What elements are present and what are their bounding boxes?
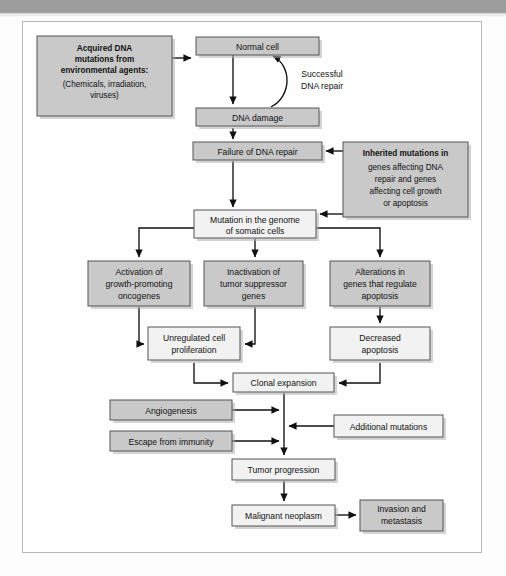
node-malignant-neoplasm[interactable]: Malignant neoplasm <box>232 505 338 529</box>
edge-decreased-to-clonal <box>339 363 380 383</box>
edge-label-successful-repair: Successful DNA repair <box>301 69 343 91</box>
tumor-progression-label: Tumor progression <box>248 465 320 475</box>
successful-repair-line-2: DNA repair <box>301 81 343 91</box>
suppressor-line-2: tumor suppressor <box>220 279 287 289</box>
inherited-line-5: or apoptosis <box>383 199 428 208</box>
node-angiogenesis[interactable]: Angiogenesis <box>110 400 235 423</box>
edge-suppressor-to-proliferation <box>245 307 255 344</box>
node-invasion-metastasis[interactable]: Invasion and metastasis <box>360 500 446 534</box>
decreased-line-1: Decreased <box>359 333 401 343</box>
inherited-line-1: Inherited mutations in <box>363 149 449 158</box>
acquired-line-3: environmental agents: <box>61 66 148 75</box>
page-canvas: Acquired DNA mutations from environmenta… <box>0 0 506 576</box>
node-decreased-apoptosis[interactable]: Decreased apoptosis <box>330 327 433 363</box>
mutation-genome-line-2: of somatic cells <box>226 226 285 236</box>
node-dna-damage[interactable]: DNA damage <box>196 108 322 129</box>
additional-mutations-label: Additional mutations <box>350 422 427 432</box>
node-clonal-expansion[interactable]: Clonal expansion <box>233 373 337 395</box>
normal-cell-label: Normal cell <box>236 42 279 52</box>
node-inherited-mutations[interactable]: Inherited mutations in genes affecting D… <box>343 142 471 220</box>
node-acquired-mutations[interactable]: Acquired DNA mutations from environmenta… <box>37 36 175 119</box>
oncogenes-line-1: Activation of <box>116 267 163 277</box>
malignant-neoplasm-label: Malignant neoplasm <box>245 511 322 521</box>
edge-successful-repair <box>271 56 287 107</box>
node-alterations-apoptosis[interactable]: Alterations in genes that regulate apopt… <box>330 261 433 309</box>
clonal-expansion-label: Clonal expansion <box>251 378 317 388</box>
node-additional-mutations[interactable]: Additional mutations <box>334 415 446 440</box>
alterations-line-3: apoptosis <box>362 291 399 301</box>
node-mutation-in-genome[interactable]: Mutation in the genome of somatic cells <box>194 210 319 241</box>
oncogenes-line-2: growth-promoting <box>106 279 173 289</box>
suppressor-line-1: Inactivation of <box>227 267 281 277</box>
acquired-line-2: mutations from <box>75 55 135 64</box>
dna-damage-label: DNA damage <box>232 113 283 123</box>
node-tumor-progression[interactable]: Tumor progression <box>232 459 338 483</box>
acquired-line-1: Acquired DNA <box>77 44 133 53</box>
flowchart-svg: Acquired DNA mutations from environmenta… <box>0 0 506 576</box>
node-failure-of-dna-repair[interactable]: Failure of DNA repair <box>193 142 325 163</box>
inherited-line-3: repair and genes <box>375 175 436 184</box>
inherited-line-4: affecting cell growth <box>369 187 442 196</box>
failure-repair-label: Failure of DNA repair <box>217 147 297 157</box>
edge-mutation-to-alterations <box>316 228 380 257</box>
escape-immunity-label: Escape from immunity <box>128 437 214 447</box>
node-escape-from-immunity[interactable]: Escape from immunity <box>110 431 235 454</box>
node-normal-cell[interactable]: Normal cell <box>196 37 322 58</box>
successful-repair-line-1: Successful <box>301 69 343 79</box>
mutation-genome-line-1: Mutation in the genome <box>210 215 300 225</box>
inherited-line-2: genes affecting DNA <box>368 163 443 172</box>
invasion-line-1: Invasion and <box>377 504 426 514</box>
oncogenes-line-3: oncogenes <box>118 291 160 301</box>
edge-proliferation-to-clonal <box>194 363 228 383</box>
node-activation-oncogenes[interactable]: Activation of growth-promoting oncogenes <box>88 261 193 309</box>
acquired-line-5: viruses) <box>90 91 119 100</box>
decreased-line-2: apoptosis <box>362 345 399 355</box>
edge-oncogenes-to-proliferation <box>139 307 144 344</box>
node-unregulated-proliferation[interactable]: Unregulated cell proliferation <box>148 327 243 363</box>
suppressor-line-3: genes <box>242 291 265 301</box>
invasion-line-2: metastasis <box>381 516 422 526</box>
node-inactivation-tumor-suppressor[interactable]: Inactivation of tumor suppressor genes <box>204 261 306 309</box>
proliferation-line-1: Unregulated cell <box>163 333 225 343</box>
alterations-line-2: genes that regulate <box>343 279 417 289</box>
alterations-line-1: Alterations in <box>355 267 405 277</box>
edge-mutation-to-oncogenes <box>139 228 194 257</box>
acquired-line-4: (Chemicals, irradiation, <box>63 80 147 89</box>
proliferation-line-2: proliferation <box>172 345 217 355</box>
angiogenesis-label: Angiogenesis <box>145 406 197 416</box>
